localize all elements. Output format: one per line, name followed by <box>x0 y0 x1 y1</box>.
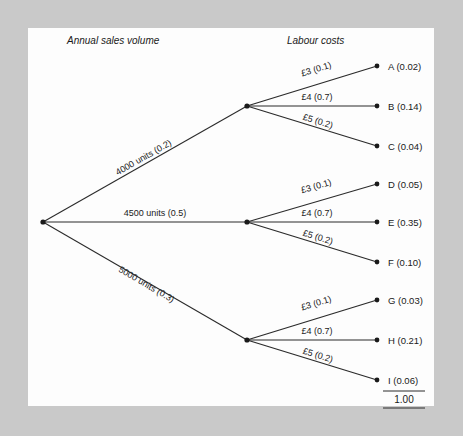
leaf-node-B <box>375 104 380 109</box>
leaf-node-F <box>375 260 380 265</box>
branch-node4000-to-C <box>247 106 377 146</box>
leaf-node-E <box>375 220 380 225</box>
branch-node4500-to-F <box>247 222 377 262</box>
branch-label-4000-units: 4000 units (0.2) <box>114 138 173 178</box>
outcome-label-B: B (0.14) <box>388 101 422 112</box>
root-node <box>40 219 45 224</box>
outcome-label-D: D (0.05) <box>388 179 422 190</box>
leaf-node-H <box>375 338 380 343</box>
outcome-label-I: I (0.06) <box>388 375 418 386</box>
node-4500-units <box>244 219 249 224</box>
leaf-node-I <box>375 378 380 383</box>
outcome-label-C: C (0.04) <box>388 141 422 152</box>
branch-label-cost3-group1: £3 (0.1) <box>300 60 333 79</box>
outcome-label-E: E (0.35) <box>388 217 422 228</box>
branch-label-cost4-group2: £4 (0.7) <box>301 208 332 218</box>
tree-diagram-screenshot: Annual sales volume Labour costs <box>0 0 463 436</box>
probability-tree: Annual sales volume Labour costs <box>0 0 463 436</box>
branch-label-cost3-group2: £3 (0.1) <box>300 177 333 195</box>
branch-label-cost3-group3: £3 (0.1) <box>300 294 333 313</box>
outcome-label-A: A (0.02) <box>388 61 421 72</box>
branch-label-cost4-group1: £4 (0.7) <box>301 92 332 102</box>
branch-label-cost4-group3: £4 (0.7) <box>301 326 332 336</box>
branch-node5000-to-I <box>247 340 377 380</box>
column-header-right: Labour costs <box>287 35 344 46</box>
branch-root-to-node-4000 <box>43 106 247 222</box>
leaf-node-G <box>375 298 380 303</box>
outcome-label-G: G (0.03) <box>388 295 423 306</box>
outcome-label-H: H (0.21) <box>388 335 422 346</box>
outcome-label-F: F (0.10) <box>388 257 421 268</box>
branch-label-5000-units: 5000 units (0.3) <box>117 264 176 304</box>
branch-label-4500-units: 4500 units (0.5) <box>124 208 187 218</box>
total-probability-label: 1.00 <box>394 394 414 405</box>
column-header-left: Annual sales volume <box>66 35 160 46</box>
leaf-node-A <box>375 64 380 69</box>
leaf-node-D <box>375 182 380 187</box>
node-5000-units <box>244 337 249 342</box>
leaf-node-C <box>375 144 380 149</box>
node-4000-units <box>244 103 249 108</box>
